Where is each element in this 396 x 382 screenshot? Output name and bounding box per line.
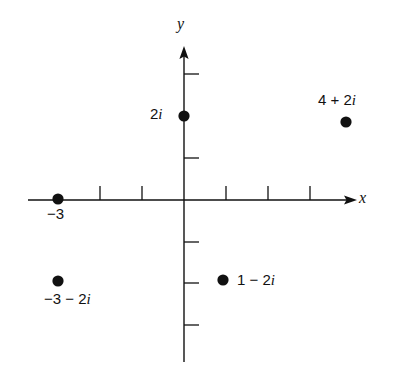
point-label-1-minus-2i: 1 − 2i <box>237 272 275 288</box>
point-label-minus-3-minus-2i-number: −3 − 2 <box>44 290 87 307</box>
y-axis-label: y <box>177 16 184 32</box>
complex-plane-figure: y x 2i 4 + 2i −3 1 − 2i −3 − 2i <box>0 0 396 382</box>
point-label-4-plus-2i-number: 4 + 2 <box>318 91 352 108</box>
data-point-1-minus-2i[interactable] <box>217 274 228 285</box>
coordinate-plane-svg <box>0 0 396 382</box>
point-label-minus-3-minus-2i: −3 − 2i <box>44 291 91 307</box>
data-point-minus-3-minus-2i[interactable] <box>52 275 63 286</box>
point-label-minus-3: −3 <box>47 206 64 221</box>
point-label-4-plus-2i: 4 + 2i <box>318 92 356 108</box>
point-label-minus-3-number: −3 <box>47 205 64 222</box>
data-point-minus-3[interactable] <box>52 193 63 204</box>
point-label-minus-3-minus-2i-imaginary-unit: i <box>87 291 91 307</box>
point-label-1-minus-2i-number: 1 − 2 <box>237 271 271 288</box>
data-point-2i[interactable] <box>178 110 189 121</box>
data-point-4-plus-2i[interactable] <box>340 116 351 127</box>
point-label-4-plus-2i-imaginary-unit: i <box>352 92 356 108</box>
x-axis-label: x <box>359 190 366 206</box>
point-label-2i-imaginary-unit: i <box>158 106 162 122</box>
point-label-2i: 2i <box>150 106 163 122</box>
point-label-1-minus-2i-imaginary-unit: i <box>271 272 275 288</box>
